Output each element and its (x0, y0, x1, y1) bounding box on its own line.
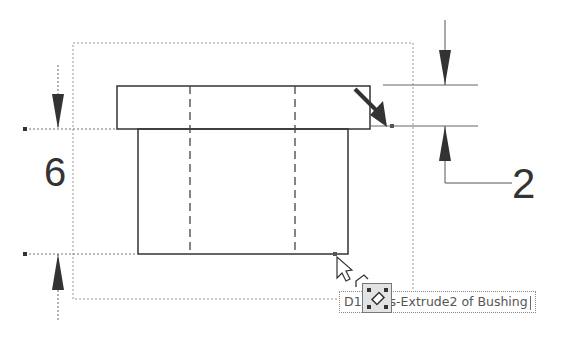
arrow-down-icon (439, 50, 451, 85)
endpoint-marker[interactable] (333, 252, 337, 256)
arrow-up-icon (439, 126, 451, 161)
tooltip-divider (530, 296, 531, 310)
body-outline[interactable] (138, 129, 348, 254)
tooltip-prefix: D1 (344, 294, 362, 309)
arrow-down-icon (52, 94, 64, 129)
dimension-value-6[interactable]: 6 (44, 152, 66, 192)
tooltip-text: s-Extrude2 of Bushing (390, 294, 528, 309)
dimension-value-2[interactable]: 2 (512, 163, 535, 205)
endpoint-marker[interactable] (390, 124, 394, 128)
dimension-select-icon (362, 283, 392, 313)
endpoint-marker[interactable] (23, 252, 27, 256)
flange-outline[interactable] (117, 86, 370, 129)
pointer-arrow-shaft (355, 89, 378, 112)
arrow-up-icon (52, 254, 64, 290)
bounding-box (73, 43, 413, 299)
endpoint-marker[interactable] (23, 127, 27, 131)
cursor-icon (337, 257, 352, 281)
